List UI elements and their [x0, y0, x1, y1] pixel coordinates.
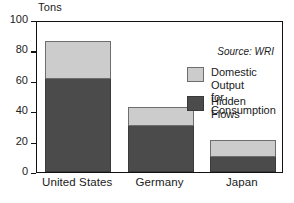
plot-area: Source: WRI Domestic Output for Consumpt…	[36, 21, 283, 173]
y-tick-label-0: 0	[22, 165, 28, 177]
bar-united-states	[45, 41, 111, 172]
bar-segment-hidden-flows	[128, 126, 194, 172]
bar-segment-hidden-flows	[45, 79, 111, 172]
y-axis: 100 80 60 40 20 0	[0, 21, 36, 173]
x-axis-labels: United StatesGermanyJapan	[36, 176, 283, 200]
y-tick-label-100: 100	[10, 13, 28, 25]
bar-japan	[210, 140, 276, 172]
bar-segment-hidden-flows	[210, 157, 276, 172]
y-tick-label-60: 60	[16, 74, 28, 86]
bar-segment-domestic-output	[210, 140, 276, 157]
bar-germany	[128, 107, 194, 172]
source-annotation: Source: WRI	[217, 46, 274, 57]
y-tick-label-80: 80	[16, 43, 28, 55]
x-axis-label-germany: Germany	[118, 176, 200, 188]
legend-label-hidden-flows: Hidden Flows	[211, 95, 246, 120]
bar-segment-domestic-output	[128, 107, 194, 127]
y-tick-label-40: 40	[16, 104, 28, 116]
y-tick-label-20: 20	[16, 135, 28, 147]
legend-item-hidden-flows: Hidden Flows	[187, 95, 246, 120]
stacked-bar-chart: Tons 100 80 60 40 20 0 Source: WRI	[0, 0, 294, 203]
x-axis-label-united-states: United States	[36, 176, 118, 188]
y-tick-mark	[31, 173, 36, 174]
y-axis-unit-label: Tons	[38, 1, 62, 13]
bar-segment-domestic-output	[45, 41, 111, 79]
x-axis-label-japan: Japan	[201, 176, 283, 188]
dark-gray-swatch-icon	[187, 96, 204, 111]
light-gray-swatch-icon	[187, 67, 204, 82]
